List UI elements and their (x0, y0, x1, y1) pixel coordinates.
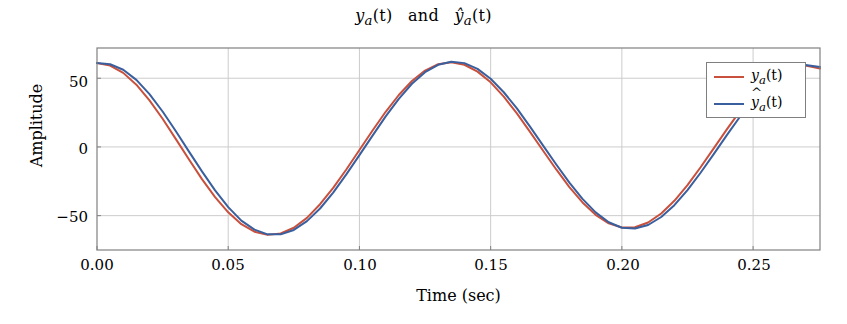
legend-entry-1[interactable]: ^ya(t) (707, 91, 807, 117)
legend-arg-0: (t) (766, 67, 783, 83)
legend-swatch-blue (714, 103, 744, 105)
y-tick-label: −50 (42, 208, 88, 226)
title-symbol-2: ŷa(t) (454, 6, 491, 25)
x-tick-label: 0.15 (456, 256, 526, 274)
legend[interactable]: ya(t) ^ya(t) (706, 62, 806, 118)
legend-arg-1: (t) (766, 94, 783, 110)
y-tick-label: 0 (42, 140, 88, 158)
legend-swatch-red (714, 76, 744, 78)
title-conjunction: and (408, 6, 439, 25)
x-tick-label: 0.05 (193, 256, 263, 274)
title-symbol-1: ya(t) (355, 6, 392, 25)
chart-title: ya(t) and ŷa(t) (0, 6, 847, 28)
x-tick-label: 0.10 (325, 256, 395, 274)
x-tick-label: 0.25 (719, 256, 789, 274)
axis-ticks (97, 78, 753, 250)
x-tick-label: 0.00 (62, 256, 132, 274)
x-axis-label: Time (sec) (97, 286, 820, 305)
y-tick-label: 50 (42, 73, 88, 91)
legend-sub-1: a (759, 100, 766, 114)
title-arg-1: (t) (373, 6, 393, 25)
figure-container: ya(t) and ŷa(t) Amplitude Time (sec) 50 … (0, 0, 847, 324)
plot-area (0, 0, 847, 324)
x-tick-label: 0.20 (588, 256, 658, 274)
y-axis-label: Amplitude (27, 26, 46, 226)
title-arg-2: (t) (472, 6, 492, 25)
title-subscript-2: a (464, 13, 472, 28)
legend-label-1: ^ya(t) (751, 94, 782, 114)
title-subscript-1: a (365, 13, 373, 28)
